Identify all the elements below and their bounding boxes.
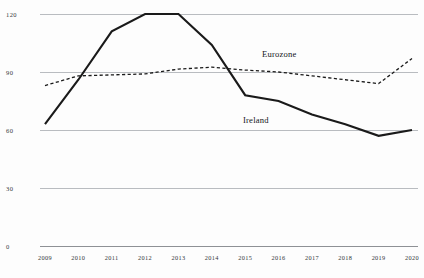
y-tick-label-30: 30 (6, 185, 34, 192)
y-tick-label-90: 90 (6, 69, 34, 76)
x-tick-label-2012: 2012 (138, 254, 152, 261)
series-layer (40, 0, 418, 248)
plot-area (40, 0, 418, 248)
y-tick-label-60: 60 (6, 127, 34, 134)
x-tick-label-2014: 2014 (205, 254, 219, 261)
x-tick-label-2017: 2017 (305, 254, 319, 261)
x-tick-label-2016: 2016 (272, 254, 286, 261)
y-tick-label-0: 0 (6, 243, 34, 250)
y-tick-label-120: 120 (6, 11, 34, 18)
series-line-eurozone (45, 58, 412, 85)
series-label-eurozone: Eurozone (262, 49, 297, 59)
x-tick-label-2015: 2015 (238, 254, 252, 261)
x-tick-label-2013: 2013 (171, 254, 185, 261)
x-tick-label-2018: 2018 (338, 254, 352, 261)
line-chart: 0306090120 20092010201120122013201420152… (0, 0, 424, 278)
x-tick-label-2019: 2019 (372, 254, 386, 261)
x-tick-label-2009: 2009 (38, 254, 52, 261)
series-label-ireland: Ireland (243, 115, 269, 125)
x-tick-label-2020: 2020 (405, 254, 419, 261)
x-tick-label-2010: 2010 (71, 254, 85, 261)
x-tick-label-2011: 2011 (105, 254, 119, 261)
